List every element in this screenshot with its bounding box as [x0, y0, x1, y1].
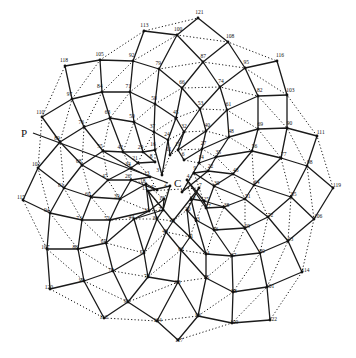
primordium-label: 66 [179, 79, 185, 85]
primordium-label: 11 [166, 146, 172, 152]
primordium-label: 109 [230, 319, 239, 325]
primordium-label: 27 [201, 140, 207, 146]
primordium-label: 51 [245, 193, 251, 199]
primordium-label: 29 [138, 144, 144, 150]
primordium-label: 72 [268, 212, 274, 218]
primordium-label: 93 [288, 236, 294, 242]
primordium-label: 17 [205, 203, 211, 209]
primordium-node [286, 94, 289, 97]
primordium-label: 77 [281, 151, 287, 157]
primordium-label: 107 [41, 244, 50, 250]
parastichy-21-3 [162, 42, 228, 175]
primordium-label: 90 [287, 120, 293, 126]
primordium-label: 32 [181, 123, 187, 129]
primordium-label: 26 [125, 173, 131, 179]
primordium-label: 46 [213, 226, 219, 232]
primordium-node [186, 179, 189, 182]
primordium-node [156, 189, 159, 192]
primordium-label: 5 [151, 184, 154, 190]
primordium-node [154, 149, 157, 152]
primordium-label: 45 [173, 109, 179, 115]
primordium-label: 9 [194, 165, 197, 171]
primordium-node [183, 131, 186, 134]
primordium-label: 116 [276, 52, 284, 58]
primordium-node [244, 67, 247, 70]
primordium-label: 68 [76, 158, 82, 164]
primordium-node [177, 149, 180, 152]
primordium-label: 21 [132, 155, 138, 161]
primordium-label: 13 [144, 170, 150, 176]
primordium-node [154, 103, 157, 106]
primordium-label: 1 [180, 188, 183, 194]
primordium-label: 95 [244, 59, 250, 65]
primordium-node [175, 117, 178, 120]
primordium-label: 28 [170, 217, 176, 223]
primordium-label: 75 [204, 274, 210, 280]
primordium-node [41, 116, 44, 119]
primordium-label: 80 [259, 248, 265, 254]
primordium-node [257, 95, 260, 98]
primordium-label: 79 [156, 60, 162, 66]
primordium-label: 111 [317, 129, 325, 135]
primordium-node [101, 91, 104, 94]
primordium-label: 14 [198, 154, 204, 160]
primordium-node [129, 91, 132, 94]
primordium-label: 70 [144, 273, 150, 279]
primordium-label: 119 [333, 182, 341, 188]
primordium-node [183, 159, 186, 162]
primordium-node [276, 60, 279, 63]
primordium-node [71, 98, 74, 101]
primordium-label: 69 [257, 121, 263, 127]
primordium-node [81, 164, 84, 167]
primordium-label: 38 [224, 202, 230, 208]
primordium-label: 42 [117, 144, 123, 150]
primordium-label: 97 [67, 91, 73, 97]
primordium-node [161, 174, 164, 177]
primordium-label: 37 [150, 123, 156, 129]
primordium-label: 99 [79, 277, 85, 283]
primordium-label: 120 [45, 284, 54, 290]
primordium-label: 34 [125, 161, 131, 167]
primordium-label: 40 [204, 122, 210, 128]
primordium-label: 76 [78, 119, 84, 125]
primordium-node [153, 131, 156, 134]
primordium-label: 82 [257, 87, 263, 93]
parastichy-13-13 [106, 177, 178, 340]
primordium-label: 71 [126, 83, 132, 89]
primordium-label: 86 [72, 244, 78, 250]
primordium-label: 92 [129, 52, 135, 58]
primordium-label: 47 [102, 173, 108, 179]
primordium-label: 100 [174, 26, 183, 32]
primordium-node [132, 60, 135, 63]
primordium-node [193, 172, 196, 175]
primordium-label: 35 [215, 149, 221, 155]
primordium-node [64, 65, 67, 68]
primordium-label: 49 [162, 228, 168, 234]
primordium-node [232, 173, 235, 176]
primordium-node [316, 135, 319, 138]
primordium-label: 104 [154, 317, 163, 323]
primordium-node [149, 176, 152, 179]
primordium-label: 115 [17, 194, 25, 200]
primordium-label: 103 [286, 87, 295, 93]
primordium-label: 39 [114, 193, 120, 199]
primordium-node [102, 150, 105, 153]
primordium-label: 61 [226, 101, 232, 107]
primordium-label: 96 [195, 312, 201, 318]
primordium-label: 110 [36, 109, 44, 115]
primordium-label: 73 [76, 215, 82, 221]
primordium-node [219, 86, 222, 89]
primordium-node [143, 30, 146, 33]
primordium-label: 108 [226, 33, 235, 39]
primordium-node [227, 41, 230, 44]
primordium-label: 31 [144, 207, 150, 213]
primordium-node [251, 150, 254, 153]
primordium-label: 78 [108, 267, 114, 273]
primordium-label: 23 [159, 206, 165, 212]
primordium-node [181, 87, 184, 90]
primordium-label: 3 [156, 167, 159, 173]
primordium-label: 87 [201, 53, 207, 59]
primordium-label: 118 [60, 57, 68, 63]
primordium-node [169, 154, 172, 157]
primordium-node [226, 109, 229, 112]
